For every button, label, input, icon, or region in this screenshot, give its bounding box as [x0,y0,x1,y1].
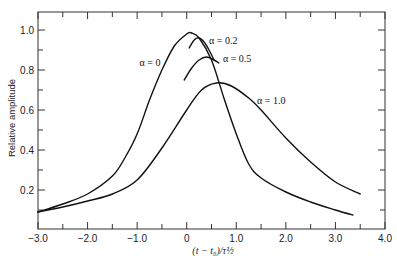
x-tick-label: −2.0 [78,233,98,244]
curve-alpha-0 [38,32,353,215]
series-label-alpha-0-5: α = 0.5 [223,53,251,64]
curve-alpha-0-5 [184,57,219,80]
y-tick-label: 1.0 [20,25,34,36]
x-axis-label: (t − t₀)/τ½ [192,245,234,257]
x-tick-label: −1.0 [127,233,147,244]
curves [38,32,360,215]
x-tick-label: 1.0 [229,233,243,244]
series-label-alpha-0: α = 0 [140,57,161,68]
y-tick-label: 0.8 [20,65,34,76]
y-axis-ticks: 0.20.40.60.81.0 [20,25,385,211]
curve-alpha-1-0 [38,83,360,212]
y-axis-label: Relative amplitude [6,79,17,157]
series-label-alpha-1-0: α = 1.0 [257,95,285,106]
y-tick-label: 0.2 [20,185,34,196]
x-tick-label: 4.0 [378,233,392,244]
relative-amplitude-chart: −3.0−2.0−1.001.02.03.04.0 0.20.40.60.81.… [0,0,397,264]
x-axis-ticks: −3.0−2.0−1.001.02.03.04.0 [28,12,392,244]
x-tick-label: 3.0 [328,233,342,244]
y-tick-label: 0.6 [20,105,34,116]
series-label-alpha-0-2: α = 0.2 [209,35,237,46]
x-tick-label: 0 [184,233,190,244]
y-tick-label: 0.4 [20,145,34,156]
x-tick-label: 2.0 [279,233,293,244]
x-tick-label: −3.0 [28,233,48,244]
